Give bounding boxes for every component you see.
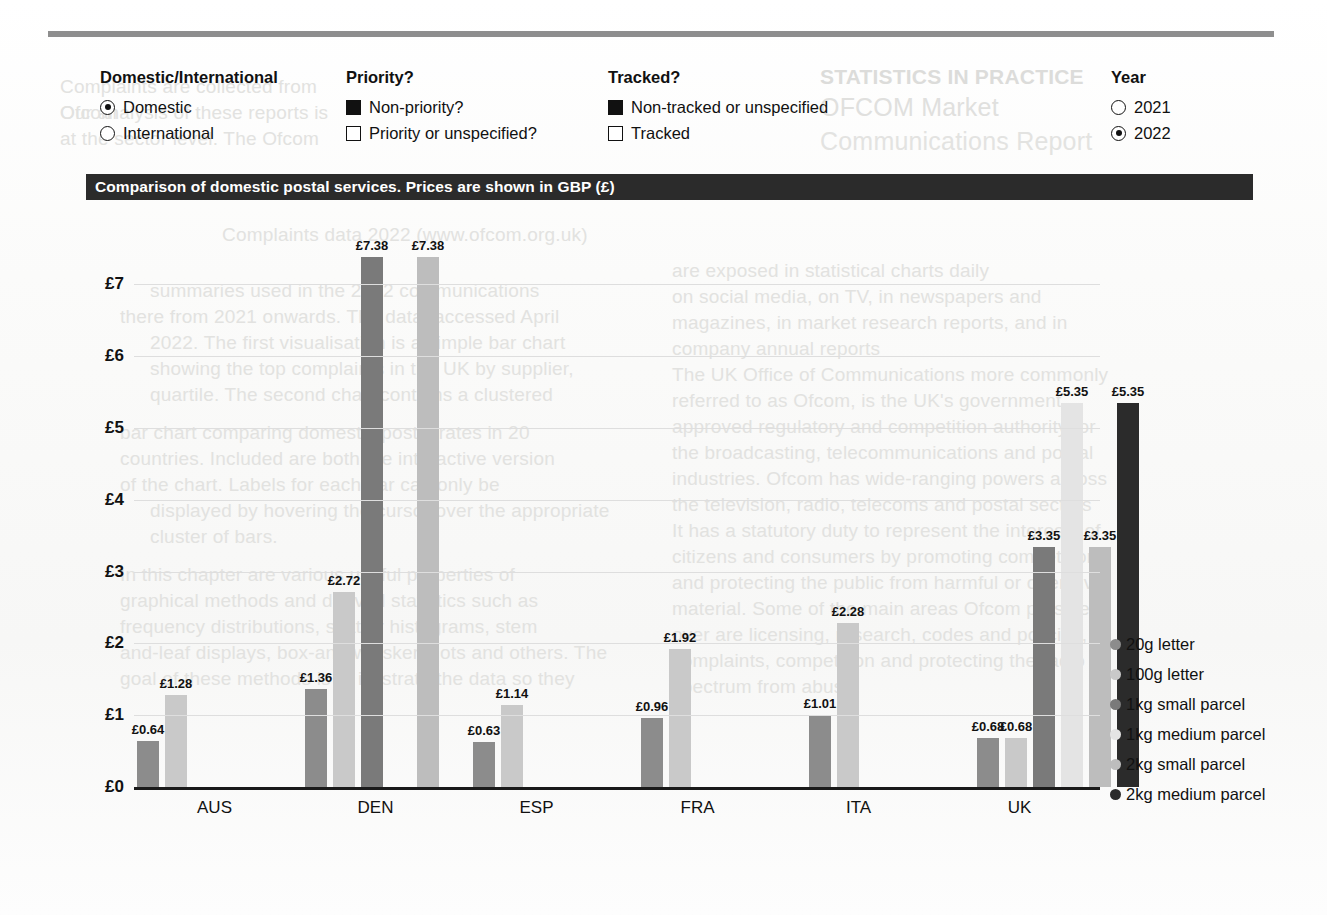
x-axis-tick-label: DEN xyxy=(295,798,456,818)
bar[interactable]: £3.35 xyxy=(1033,547,1055,788)
bar[interactable]: £0.63 xyxy=(473,742,495,787)
bar-value-label: £7.38 xyxy=(412,238,445,253)
bar-slot: £1.36 xyxy=(305,227,327,787)
bar-group-esp: £0.63£1.14 xyxy=(470,227,638,787)
bar-value-label: £0.64 xyxy=(132,722,165,737)
gridline xyxy=(134,500,1100,501)
bar[interactable]: £0.64 xyxy=(137,741,159,787)
y-axis-tick-label: £1 xyxy=(64,705,124,725)
legend-label: 2kg small parcel xyxy=(1126,755,1245,774)
bar-slot: £0.64 xyxy=(137,227,159,787)
checkbox-icon[interactable] xyxy=(608,126,623,141)
bar[interactable]: £5.35 xyxy=(1061,403,1083,787)
legend-swatch-icon xyxy=(1110,699,1121,710)
bar-slot xyxy=(529,227,551,787)
bar-slot xyxy=(389,227,411,787)
checkbox-label: Tracked xyxy=(631,124,690,143)
chart-title-bar: Comparison of domestic postal services. … xyxy=(86,174,1253,200)
bar-slot xyxy=(277,227,299,787)
legend-label: 100g letter xyxy=(1126,665,1204,684)
legend-label: 1kg medium parcel xyxy=(1126,725,1265,744)
bar-slot xyxy=(865,227,887,787)
filter-title: Year xyxy=(1111,68,1171,87)
legend-item[interactable]: 100g letter xyxy=(1110,659,1310,689)
checkbox-icon-checked[interactable] xyxy=(608,100,623,115)
legend-item[interactable]: 1kg small parcel xyxy=(1110,689,1310,719)
filter-controls: Domestic/International Domestic Internat… xyxy=(48,58,1274,168)
y-axis-tick-label: £6 xyxy=(64,346,124,366)
y-axis-tick-label: £0 xyxy=(64,777,124,797)
radio-option-international[interactable]: International xyxy=(100,120,278,146)
checkbox-option-tracked[interactable]: Tracked xyxy=(608,120,828,146)
filter-group-domestic-international: Domestic/International Domestic Internat… xyxy=(100,68,278,146)
radio-label: International xyxy=(123,124,214,143)
checkbox-label: Priority or unspecified? xyxy=(369,124,537,143)
bar-slot xyxy=(193,227,215,787)
bar-slot: £0.68 xyxy=(1005,227,1027,787)
bar[interactable]: £2.72 xyxy=(333,592,355,787)
bar-slot xyxy=(697,227,719,787)
legend-item[interactable]: 2kg small parcel xyxy=(1110,749,1310,779)
bar-slot xyxy=(949,227,971,787)
y-axis-tick-label: £2 xyxy=(64,633,124,653)
radio-icon[interactable] xyxy=(100,126,115,141)
bar-slot: £2.28 xyxy=(837,227,859,787)
bar-value-label: £1.36 xyxy=(300,670,333,685)
checkbox-icon-checked[interactable] xyxy=(346,100,361,115)
bar-group-ita: £1.01£2.28 xyxy=(806,227,974,787)
bar-slot xyxy=(585,227,607,787)
legend-item[interactable]: 20g letter xyxy=(1110,629,1310,659)
legend-item[interactable]: 2kg medium parcel xyxy=(1110,779,1310,809)
bar[interactable]: £1.01 xyxy=(809,715,831,788)
bar-slot: £2.72 xyxy=(333,227,355,787)
bar[interactable]: £1.36 xyxy=(305,689,327,787)
radio-option-2021[interactable]: 2021 xyxy=(1111,94,1171,120)
bar-slot xyxy=(893,227,915,787)
bar[interactable]: £2.28 xyxy=(837,623,859,787)
y-axis-tick-label: £7 xyxy=(64,274,124,294)
x-axis-tick-label: ESP xyxy=(456,798,617,818)
bar[interactable]: £0.96 xyxy=(641,718,663,787)
radio-icon-selected[interactable] xyxy=(1111,126,1126,141)
checkbox-option-priority-or-unspecified[interactable]: Priority or unspecified? xyxy=(346,120,537,146)
bar-slot xyxy=(725,227,747,787)
x-axis-tick-label: ITA xyxy=(778,798,939,818)
bar-value-label: £0.96 xyxy=(636,699,669,714)
legend-item[interactable]: 1kg medium parcel xyxy=(1110,719,1310,749)
bar-slot: £5.35 xyxy=(1061,227,1083,787)
bar[interactable]: £3.35 xyxy=(1089,547,1111,788)
bar-slot: £1.28 xyxy=(165,227,187,787)
radio-icon[interactable] xyxy=(1111,100,1126,115)
legend-label: 20g letter xyxy=(1126,635,1195,654)
bar-slot: £0.96 xyxy=(641,227,663,787)
bar-slot xyxy=(557,227,579,787)
checkbox-option-non-priority[interactable]: Non-priority? xyxy=(346,94,537,120)
y-axis-tick-label: £3 xyxy=(64,562,124,582)
legend-swatch-icon xyxy=(1110,729,1121,740)
gridline xyxy=(134,428,1100,429)
radio-icon-selected[interactable] xyxy=(100,100,115,115)
bar[interactable]: £1.14 xyxy=(501,705,523,787)
bar-value-label: £5.35 xyxy=(1112,384,1145,399)
bar-group-aus: £0.64£1.28 xyxy=(134,227,302,787)
bar[interactable]: £7.38 xyxy=(417,257,439,787)
radio-option-domestic[interactable]: Domestic xyxy=(100,94,278,120)
gridline xyxy=(134,715,1100,716)
bar[interactable]: £1.92 xyxy=(669,649,691,787)
bar-slot: £0.63 xyxy=(473,227,495,787)
bar-value-label: £3.35 xyxy=(1028,528,1061,543)
bar-value-label: £1.14 xyxy=(496,686,529,701)
bar-slot xyxy=(781,227,803,787)
bar[interactable]: £7.38 xyxy=(361,257,383,787)
bar[interactable]: £0.68 xyxy=(977,738,999,787)
bar[interactable]: £0.68 xyxy=(1005,738,1027,787)
x-axis-line xyxy=(134,787,1100,790)
checkbox-icon[interactable] xyxy=(346,126,361,141)
radio-label: Domestic xyxy=(123,98,192,117)
filter-group-tracked: Tracked? Non-tracked or unspecified Trac… xyxy=(608,68,828,146)
radio-option-2022[interactable]: 2022 xyxy=(1111,120,1171,146)
checkbox-option-non-tracked[interactable]: Non-tracked or unspecified xyxy=(608,94,828,120)
x-axis-tick-label: AUS xyxy=(134,798,295,818)
bar[interactable]: £1.28 xyxy=(165,695,187,787)
header-divider xyxy=(48,31,1274,37)
